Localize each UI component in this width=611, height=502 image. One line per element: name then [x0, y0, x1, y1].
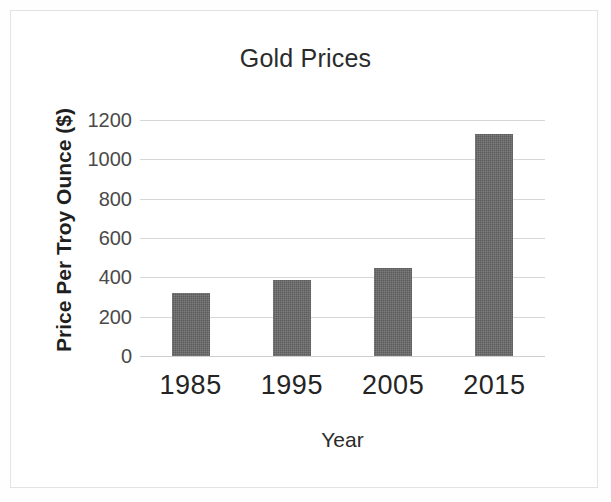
chart-figure: Gold Prices Price Per Troy Ounce ($) 020…: [0, 0, 611, 502]
y-axis-tick-label: 0: [58, 345, 132, 368]
bar-slot: [343, 120, 444, 356]
bar-slot: [444, 120, 545, 356]
chart-title: Gold Prices: [0, 44, 611, 73]
x-axis-tick-labels: 1985199520052015: [140, 370, 545, 404]
bar-slot: [140, 120, 241, 356]
y-axis-tick-label: 800: [58, 187, 132, 210]
gridline: [140, 356, 545, 357]
x-axis-tick-label: 1995: [241, 370, 342, 401]
y-axis-tick-label: 1200: [58, 109, 132, 132]
x-axis-tick-label: 2015: [444, 370, 545, 401]
bar-slot: [241, 120, 342, 356]
y-axis-tick-labels: 020040060080010001200: [58, 120, 132, 356]
x-axis-title: Year: [140, 428, 545, 452]
x-axis-tick-label: 2005: [343, 370, 444, 401]
bar: [273, 280, 311, 356]
y-axis-tick-label: 200: [58, 305, 132, 328]
x-axis-tick-label: 1985: [140, 370, 241, 401]
y-axis-tick-label: 1000: [58, 148, 132, 171]
plot-area: [140, 120, 545, 356]
bar: [374, 268, 412, 356]
y-axis-tick-label: 400: [58, 266, 132, 289]
bar: [475, 134, 513, 356]
bar: [172, 293, 210, 356]
y-axis-tick-label: 600: [58, 227, 132, 250]
bar-series: [140, 120, 545, 356]
